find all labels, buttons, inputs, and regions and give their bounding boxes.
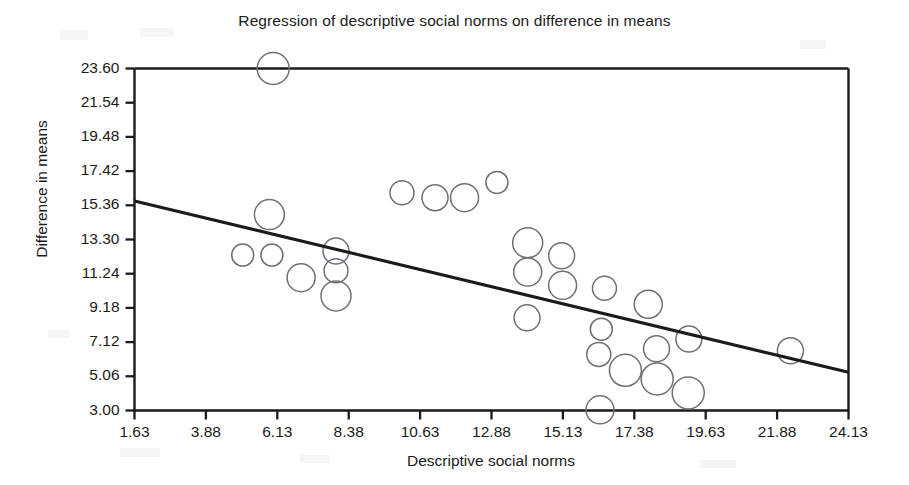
data-point-bubble [514, 305, 540, 331]
x-tick-label: 19.63 [671, 423, 741, 441]
x-tick-label: 24.13 [814, 423, 884, 441]
x-tick-label: 17.38 [599, 423, 669, 441]
data-point-bubble [644, 336, 670, 362]
y-tick-label: 15.36 [50, 195, 120, 213]
y-tick-label: 3.00 [50, 401, 120, 419]
data-point-bubble [609, 354, 641, 386]
data-point-bubble [232, 244, 254, 266]
regression-line [135, 201, 849, 372]
data-point-bubble [261, 244, 283, 266]
data-point-bubble [587, 342, 611, 366]
x-tick-label: 12.88 [457, 423, 527, 441]
x-tick-label: 1.63 [100, 423, 170, 441]
x-tick-label: 6.13 [242, 423, 312, 441]
y-tick-label: 11.24 [50, 264, 120, 282]
x-tick-label: 8.38 [314, 423, 384, 441]
x-tick-label: 3.88 [171, 423, 241, 441]
data-point-bubble [324, 259, 348, 283]
y-tick-label: 17.42 [50, 161, 120, 179]
x-tick-marks [135, 411, 849, 420]
data-point-bubble [321, 281, 351, 311]
data-point-bubble [513, 228, 543, 258]
data-point-bubble [514, 258, 542, 286]
data-point-bubble [451, 184, 479, 212]
y-tick-label: 5.06 [50, 366, 120, 384]
data-point-bubble [634, 290, 662, 318]
data-point-bubble [549, 243, 575, 269]
plot-canvas [0, 0, 909, 485]
data-point-bubble [422, 185, 448, 211]
data-point-bubble [641, 363, 673, 395]
x-tick-label: 15.13 [528, 423, 598, 441]
data-point-bubble [549, 271, 577, 299]
y-tick-label: 9.18 [50, 298, 120, 316]
y-tick-label: 19.48 [50, 127, 120, 145]
data-point-bubble [390, 181, 414, 205]
y-tick-label: 13.30 [50, 230, 120, 248]
y-tick-marks [126, 69, 135, 411]
y-tick-label: 23.60 [50, 59, 120, 77]
axis-frame [135, 69, 849, 411]
data-point-bubble [672, 377, 704, 409]
data-point-bubble [287, 264, 315, 292]
data-point-bubble [486, 171, 508, 193]
data-point-group [232, 53, 804, 424]
data-point-bubble [590, 318, 612, 340]
chart-figure: Regression of descriptive social norms o… [0, 0, 909, 485]
x-tick-label: 10.63 [385, 423, 455, 441]
plot-border [135, 69, 849, 411]
data-point-bubble [254, 200, 284, 230]
y-tick-label: 7.12 [50, 332, 120, 350]
data-point-bubble [676, 326, 702, 352]
x-tick-label: 21.88 [742, 423, 812, 441]
data-point-bubble [592, 276, 616, 300]
y-tick-label: 21.54 [50, 93, 120, 111]
